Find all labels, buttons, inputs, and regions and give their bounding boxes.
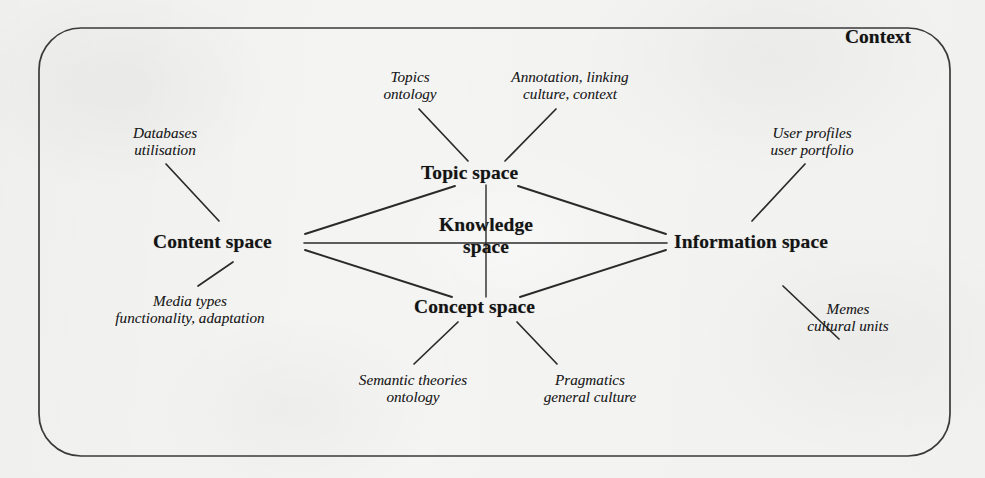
annotation-annotation-linking: Annotation, linking culture, context (490, 68, 650, 103)
diagram-canvas: Context Topic space Content space Knowle… (0, 0, 985, 478)
annotation-pragmatics-line1: Pragmatics (515, 371, 665, 388)
annotation-topics-ontology-line2: ontology (350, 85, 470, 102)
annotation-semantic-theories-line1: Semantic theories (323, 371, 503, 388)
annotation-media-types-line1: Media types (66, 292, 314, 309)
node-topic-space[interactable]: Topic space (421, 162, 518, 184)
annotation-pragmatics-line2: general culture (515, 388, 665, 405)
annotation-annotation-linking-line1: Annotation, linking (490, 68, 650, 85)
leader-semantic-theories (414, 322, 458, 364)
annotation-databases-utilisation-line1: Databases (100, 124, 230, 141)
node-knowledge-space[interactable]: Knowledge space (406, 214, 566, 258)
annotation-databases-utilisation: Databases utilisation (100, 124, 230, 159)
annotation-pragmatics: Pragmatics general culture (515, 371, 665, 406)
annotation-user-profiles: User profiles user portfolio (742, 124, 882, 159)
annotation-databases-utilisation-line2: utilisation (100, 141, 230, 158)
leader-databases (166, 164, 219, 221)
context-boundary-label: Context (845, 26, 911, 48)
leader-user-profiles (752, 164, 805, 221)
node-concept-space[interactable]: Concept space (414, 296, 535, 318)
annotation-memes-line1: Memes (778, 300, 918, 317)
node-information-space[interactable]: Information space (674, 231, 828, 253)
annotation-topics-ontology-line1: Topics (350, 68, 470, 85)
annotation-topics-ontology: Topics ontology (350, 68, 470, 103)
leader-pragmatics (517, 322, 557, 364)
annotation-semantic-theories: Semantic theories ontology (323, 371, 503, 406)
annotation-user-profiles-line1: User profiles (742, 124, 882, 141)
leader-topics-ontology (419, 109, 468, 161)
annotation-media-types: Media types functionality, adaptation (66, 292, 314, 327)
node-content-space[interactable]: Content space (153, 231, 272, 253)
leader-media-types (198, 262, 233, 286)
node-knowledge-space-line1: Knowledge (406, 214, 566, 236)
annotation-user-profiles-line2: user portfolio (742, 141, 882, 158)
leader-annotation-linking (505, 109, 556, 161)
node-knowledge-space-line2: space (406, 236, 566, 258)
annotation-media-types-line2: functionality, adaptation (66, 309, 314, 326)
annotation-annotation-linking-line2: culture, context (490, 85, 650, 102)
annotation-semantic-theories-line2: ontology (323, 388, 503, 405)
annotation-memes: Memes cultural units (778, 300, 918, 335)
annotation-memes-line2: cultural units (778, 317, 918, 334)
